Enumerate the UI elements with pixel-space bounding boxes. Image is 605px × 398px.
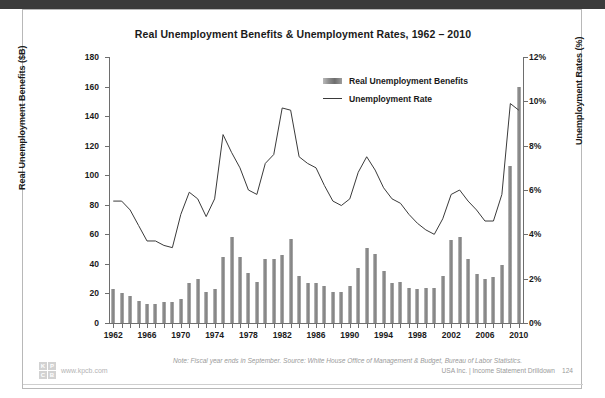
y-axis-left-tick-label: 60 [53,229,99,239]
kpcb-letter-c: C [39,371,47,379]
kpcb-mark-icon: K P C B [39,362,56,379]
x-axis-tick [493,324,494,328]
x-axis-tick [155,324,156,328]
y-axis-right-tick [524,323,528,324]
footer-source: USA Inc. | Income Statement Drilldown124 [323,367,573,374]
x-axis-tick [299,324,300,328]
x-axis-tick [358,324,359,328]
line-series [109,57,523,323]
kpcb-letter-p: P [48,362,56,370]
y-axis-right-tick [524,57,528,58]
x-axis-tick [384,324,385,328]
x-axis-tick [451,324,452,328]
y-axis-left-tick-label: 100 [53,170,99,180]
y-axis-left-tick-label: 160 [53,82,99,92]
y-axis-left-title: Real Unemployment Benefits ($B) [17,45,27,190]
x-axis-tick [426,324,427,328]
kpcb-letter-b: B [48,371,56,379]
x-axis-tick [392,324,393,328]
x-axis-tick [443,324,444,328]
x-axis-tick [139,324,140,328]
x-axis-tick [215,324,216,328]
y-axis-left-tick-label: 180 [53,52,99,62]
x-axis-tick [341,324,342,328]
x-axis-tick [460,324,461,328]
footer-note: Note: Fiscal year ends in September. Sou… [173,356,573,366]
x-axis-tick [485,324,486,328]
x-axis-tick [333,324,334,328]
x-axis-tick [291,324,292,328]
y-axis-right-tick [524,234,528,235]
x-axis-tick [468,324,469,328]
top-dark-band [0,0,605,9]
y-axis-right-tick [524,146,528,147]
footer-divider [23,384,583,385]
kpcb-url-text: www.kpcb.com [61,367,108,374]
x-axis-tick [308,324,309,328]
x-axis-tick [502,324,503,328]
y-axis-right-tick-label: 8% [529,141,569,151]
x-axis-tick [274,324,275,328]
y-axis-left-tick-label: 20 [53,288,99,298]
x-axis-tick [164,324,165,328]
x-axis-tick [232,324,233,328]
footer-source-text: USA Inc. | Income Statement Drilldown [441,367,555,374]
x-axis-tick [122,324,123,328]
x-axis-tick [147,324,148,328]
x-axis-tick [316,324,317,328]
y-axis-right-tick-label: 10% [529,96,569,106]
plot-area [109,57,523,323]
y-axis-right-tick-label: 6% [529,185,569,195]
x-axis-tick [417,324,418,328]
x-axis-tick [265,324,266,328]
x-axis-tick [223,324,224,328]
slide-card: Real Unemployment Benefits & Unemploymen… [22,9,582,389]
y-axis-right-tick [524,279,528,280]
x-axis-tick [282,324,283,328]
x-axis-tick [519,324,520,328]
x-axis-tick [257,324,258,328]
x-axis-tick [409,324,410,328]
y-axis-left-tick-label: 0 [53,318,99,328]
y-axis-left-tick-label: 40 [53,259,99,269]
x-axis-tick [375,324,376,328]
x-axis-tick [248,324,249,328]
slide-root: Real Unemployment Benefits & Unemploymen… [0,0,605,398]
x-axis-tick [130,324,131,328]
x-axis-tick [181,324,182,328]
x-axis-tick [324,324,325,328]
x-axis-tick [172,324,173,328]
x-axis-tick [350,324,351,328]
x-axis-tick [477,324,478,328]
x-axis-tick [198,324,199,328]
x-axis-tick [240,324,241,328]
x-axis-tick [189,324,190,328]
x-axis-tick [113,324,114,328]
y-axis-right-tick-label: 4% [529,229,569,239]
kpcb-logo: K P C B www.kpcb.com [39,362,108,379]
y-axis-left-tick-label: 80 [53,200,99,210]
x-axis-tick-label: 2010 [499,330,539,340]
y-axis-right-tick [524,190,528,191]
page-number: 124 [562,367,573,374]
y-axis-right-title: Unemployment Rates (%) [574,36,584,145]
y-axis-left-tick-label: 140 [53,111,99,121]
y-axis-left-tick [105,323,109,324]
y-axis-right-tick-label: 12% [529,52,569,62]
x-axis-tick [510,324,511,328]
y-axis-right-tick-label: 2% [529,274,569,284]
y-axis-right-tick-label: 0% [529,318,569,328]
chart-title: Real Unemployment Benefits & Unemploymen… [23,28,583,40]
y-axis-right-tick [524,101,528,102]
x-axis-tick [400,324,401,328]
x-axis-tick [206,324,207,328]
x-axis-tick [367,324,368,328]
x-axis-tick [434,324,435,328]
kpcb-letter-k: K [39,362,47,370]
y-axis-left-tick-label: 120 [53,141,99,151]
